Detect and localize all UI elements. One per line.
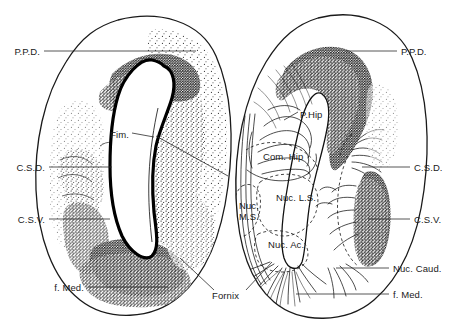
label-left-csd: C.S.D. [16, 162, 45, 173]
label-p-hip: P.Hip [300, 109, 323, 120]
label-left-fim: Fim. [110, 129, 129, 140]
label-com-hip: Com. Hip [263, 151, 303, 162]
label-left-csv: C.S.V. [18, 214, 45, 225]
right-lateral-wall-stipple [366, 83, 398, 170]
label-nuc-ac: Nuc. Ac. [268, 239, 304, 250]
anatomical-figure: P.P.D. Fim. C.S.D. C.S.V. f. Med. P.P.D.… [0, 0, 464, 331]
label-right-csd: C.S.D. [414, 162, 443, 173]
label-nuc-ms-line2: M.S. [239, 211, 259, 222]
label-left-ppd: P.P.D. [14, 46, 40, 57]
label-left-fmed: f. Med. [54, 282, 84, 293]
label-fornix: Fornix [212, 290, 239, 301]
left-hemisphere-section [36, 16, 231, 315]
brain-section-diagram: P.P.D. Fim. C.S.D. C.S.V. f. Med. P.P.D.… [0, 0, 464, 331]
label-right-fmed: f. Med. [393, 289, 423, 300]
label-nuc-ms-line1: Nuc. [239, 200, 259, 211]
label-right-nuc-caud: Nuc. Caud. [393, 263, 442, 274]
label-nuc-ls: Nuc. L.S. [276, 192, 316, 203]
label-right-csv: C.S.V. [414, 214, 441, 225]
label-right-ppd: P.P.D. [401, 46, 427, 57]
